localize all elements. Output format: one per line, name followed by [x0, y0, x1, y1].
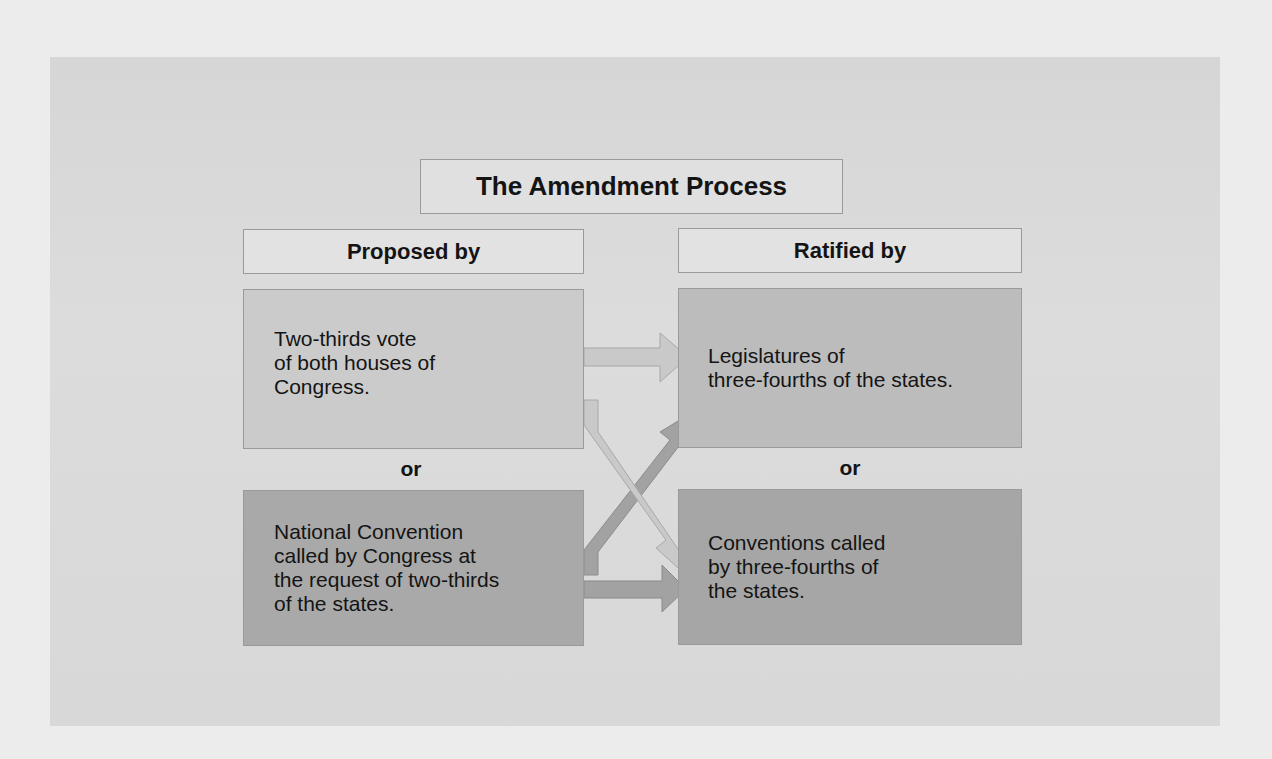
or-separator-left: or — [381, 457, 441, 481]
ratified-by-header: Ratified by — [678, 228, 1022, 273]
diagram-panel — [50, 57, 1220, 726]
proposal-congress-text: Two-thirds vote of both houses of Congre… — [274, 327, 435, 399]
ratification-legislatures-text: Legislatures of three-fourths of the sta… — [708, 344, 953, 392]
proposed-by-label: Proposed by — [347, 239, 480, 265]
proposal-national-convention-text: National Convention called by Congress a… — [274, 520, 499, 616]
diagram-title-text: The Amendment Process — [476, 171, 787, 202]
ratification-conventions-box: Conventions called by three-fourths of t… — [678, 489, 1022, 645]
proposal-congress-box: Two-thirds vote of both houses of Congre… — [243, 289, 584, 449]
ratified-by-label: Ratified by — [794, 238, 906, 264]
or-separator-right: or — [820, 456, 880, 480]
proposal-national-convention-box: National Convention called by Congress a… — [243, 490, 584, 646]
proposed-by-header: Proposed by — [243, 229, 584, 274]
ratification-conventions-text: Conventions called by three-fourths of t… — [708, 531, 885, 603]
diagram-title: The Amendment Process — [420, 159, 843, 214]
ratification-legislatures-box: Legislatures of three-fourths of the sta… — [678, 288, 1022, 448]
